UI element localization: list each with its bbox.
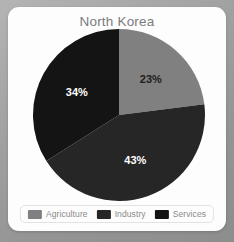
pie-slice-group xyxy=(33,29,205,201)
pie-label-agriculture: 23% xyxy=(140,73,162,85)
legend-item-industry[interactable]: Industry xyxy=(97,209,146,219)
pie-label-services: 34% xyxy=(66,86,88,98)
pie-label-industry: 43% xyxy=(124,154,146,166)
legend-label-industry: Industry xyxy=(115,209,146,219)
legend-swatch-industry xyxy=(97,210,111,219)
page-title: North Korea xyxy=(8,14,226,29)
legend-item-services[interactable]: Services xyxy=(155,209,206,219)
chart-card: North Korea 23%43%34% Agriculture Indust… xyxy=(8,7,226,231)
legend-swatch-agriculture xyxy=(28,210,42,219)
pie-chart-svg: 23%43%34% xyxy=(32,28,206,202)
screenshot-viewport: North Korea 23%43%34% Agriculture Indust… xyxy=(0,0,234,242)
legend-item-agriculture[interactable]: Agriculture xyxy=(28,209,88,219)
pie-chart: 23%43%34% xyxy=(32,28,206,202)
legend-swatch-services xyxy=(155,210,169,219)
legend-label-services: Services xyxy=(173,209,206,219)
chart-legend: Agriculture Industry Services xyxy=(20,205,214,223)
legend-label-agriculture: Agriculture xyxy=(46,209,88,219)
